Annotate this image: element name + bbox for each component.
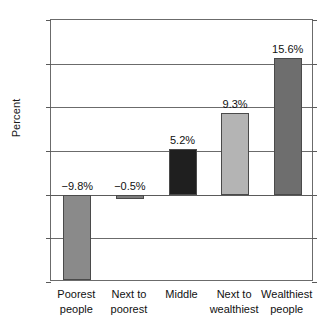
bar-value-label: 9.3% xyxy=(223,98,248,110)
x-label-line1: Next to xyxy=(217,288,252,300)
y-tick-mark-10 xyxy=(46,107,51,108)
x-label-line2: people xyxy=(261,302,312,317)
x-label-line2: poorest xyxy=(111,302,148,317)
y-tick-mark-right-10 xyxy=(312,107,317,108)
y-tick-mark-right-5 xyxy=(312,151,317,152)
bar xyxy=(169,149,197,194)
bar xyxy=(274,58,302,194)
y-tick-mark--5 xyxy=(46,238,51,239)
x-label-line1: Poorest xyxy=(57,288,95,300)
x-label-line1: Next to xyxy=(111,288,146,300)
bar xyxy=(116,195,144,199)
bar-value-label: −9.8% xyxy=(62,180,94,192)
x-axis-category-label: Wealthiestpeople xyxy=(261,287,312,317)
bar-value-label: 5.2% xyxy=(170,134,195,146)
y-tick-mark-15 xyxy=(46,64,51,65)
x-label-line2: people xyxy=(57,302,95,317)
bar xyxy=(221,113,249,194)
bar xyxy=(63,195,91,281)
x-label-line1: Middle xyxy=(165,288,197,300)
bar-value-label: −0.5% xyxy=(114,180,146,192)
x-axis-tick-labels: PoorestpeopleNext topoorestMiddleNext to… xyxy=(50,287,313,329)
x-axis-category-label: Poorestpeople xyxy=(57,287,95,317)
y-tick-mark-right-20 xyxy=(312,20,317,21)
bar-value-label: 15.6% xyxy=(272,43,303,55)
bar-chart: Percent −9.8%−0.5%5.2%9.3%15.6% 20151050… xyxy=(0,0,334,331)
plot-area: −9.8%−0.5%5.2%9.3%15.6% xyxy=(50,19,313,281)
y-tick-mark-right-15 xyxy=(312,64,317,65)
x-label-line2: wealthiest xyxy=(210,302,259,317)
y-tick-mark--10 xyxy=(46,282,51,283)
x-label-line1: Wealthiest xyxy=(261,288,312,300)
y-tick-mark-right--10 xyxy=(312,282,317,283)
y-tick-mark-0 xyxy=(46,195,51,196)
y-tick-mark-right--5 xyxy=(312,238,317,239)
x-axis-category-label: Next topoorest xyxy=(111,287,148,317)
x-axis-category-label: Middle xyxy=(165,287,197,302)
y-tick-mark-5 xyxy=(46,151,51,152)
x-axis-category-label: Next towealthiest xyxy=(210,287,259,317)
y-tick-mark-20 xyxy=(46,20,51,21)
y-tick-mark-right-0 xyxy=(312,195,317,196)
y-axis-title: Percent xyxy=(10,78,22,158)
